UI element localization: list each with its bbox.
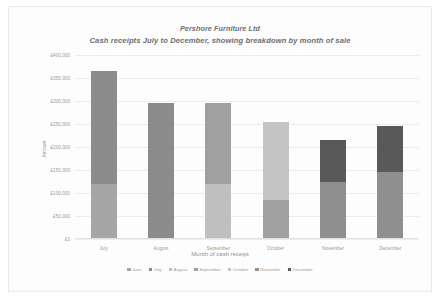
legend-item[interactable]: September [194, 267, 220, 272]
y-axis-tick-label: £150,000 [50, 168, 70, 173]
stacked-bar[interactable] [148, 103, 174, 239]
chart-container: Pershore Furniture Ltd Cash receipts Jul… [8, 6, 432, 292]
y-axis-tick-label: £50,000 [53, 214, 70, 219]
legend-swatch-icon [288, 268, 292, 272]
legend-item[interactable]: June [127, 267, 142, 272]
stacked-bar[interactable] [91, 71, 117, 239]
bar-segment[interactable] [91, 71, 117, 184]
stacked-bar[interactable] [205, 103, 231, 239]
bar-slot: October [247, 55, 304, 239]
bar-segment[interactable] [377, 126, 403, 172]
legend-item[interactable]: October [228, 267, 249, 272]
bar-segment[interactable] [148, 103, 174, 239]
legend-label: October [233, 267, 249, 272]
stacked-bar[interactable] [263, 122, 289, 239]
bar-segment[interactable] [377, 172, 403, 239]
y-axis-tick-label: £200,000 [50, 145, 70, 150]
chart-subtitle: Cash receipts July to December, showing … [9, 35, 431, 47]
bar-slot: September [190, 55, 247, 239]
gridline [75, 239, 419, 240]
bar-segment[interactable] [205, 184, 231, 239]
bar-slot: November [304, 55, 361, 239]
legend-label: September [199, 267, 220, 272]
y-axis-tick-label: £100,000 [50, 191, 70, 196]
legend-item[interactable]: November [255, 267, 280, 272]
y-axis-title: Amount [41, 140, 47, 157]
bar-slot: July [75, 55, 132, 239]
bar-segment[interactable] [320, 140, 346, 181]
chart-title-block: Pershore Furniture Ltd Cash receipts Jul… [9, 23, 431, 47]
legend-label: November [260, 267, 280, 272]
stacked-bar[interactable] [377, 126, 403, 239]
legend-swatch-icon [127, 268, 131, 272]
bar-slot: August [132, 55, 189, 239]
legend-swatch-icon [194, 268, 198, 272]
y-axis-tick-label: £350,000 [50, 76, 70, 81]
y-axis-tick-label: £300,000 [50, 99, 70, 104]
y-axis-tick-label: £0 [65, 237, 70, 242]
legend-label: August [174, 267, 188, 272]
legend-swatch-icon [255, 268, 259, 272]
bar-slot: December [362, 55, 419, 239]
y-axis-tick-label: £250,000 [50, 122, 70, 127]
bar-segment[interactable] [263, 122, 289, 200]
legend-swatch-icon [169, 268, 173, 272]
bar-segment[interactable] [263, 200, 289, 239]
y-axis-tick-label: £400,000 [50, 53, 70, 58]
stacked-bar[interactable] [320, 140, 346, 239]
legend-item[interactable]: July [149, 267, 162, 272]
legend-item[interactable]: December [288, 267, 313, 272]
legend-swatch-icon [228, 268, 232, 272]
legend-item[interactable]: August [169, 267, 188, 272]
bar-segment[interactable] [91, 184, 117, 239]
legend-label: June [132, 267, 142, 272]
bar-segment[interactable] [205, 103, 231, 184]
x-axis-line [75, 238, 419, 239]
chart-legend: JuneJulyAugustSeptemberOctoberNovemberDe… [9, 267, 431, 272]
legend-label: July [154, 267, 162, 272]
x-axis-title: Month of cash receipt [9, 251, 431, 257]
legend-swatch-icon [149, 268, 153, 272]
bar-segment[interactable] [320, 182, 346, 240]
legend-label: December [293, 267, 313, 272]
chart-title: Pershore Furniture Ltd [9, 23, 431, 35]
plot-area: £400,000£350,000£300,000£250,000£200,000… [75, 55, 419, 239]
